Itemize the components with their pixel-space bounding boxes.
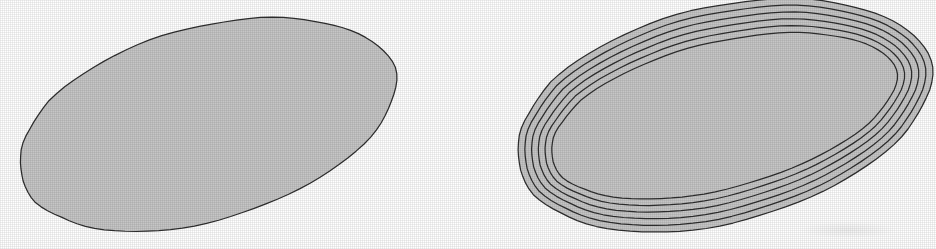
figure-canvas [0, 0, 936, 249]
figure-page: { "figure": { "background_color": "#ffff… [0, 0, 936, 249]
